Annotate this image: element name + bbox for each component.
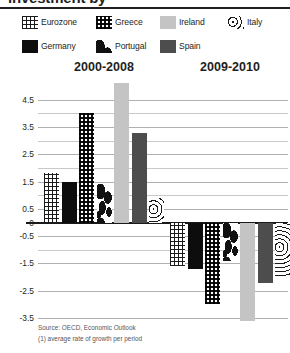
y-axis-tick-label: 2.5 (0, 149, 34, 159)
bar-eurozone-2009-2010 (170, 223, 185, 267)
legend-label: Eurozone (41, 17, 77, 27)
group-label-1: 2000-2008 (44, 60, 164, 74)
gridline-minor (38, 168, 288, 169)
bar-greece-2000-2008 (79, 113, 94, 222)
legend-item-italy[interactable]: Italy (228, 12, 262, 32)
bar-portugal-2000-2008 (97, 184, 112, 222)
cropped-title-text: investment by (8, 0, 106, 6)
y-axis-tick-label: -1.5 (0, 258, 34, 268)
bar-portugal-2009-2010 (223, 223, 238, 261)
chart-footnotes: Source: OECD, Economic Outlook (1) avera… (38, 322, 288, 344)
y-axis-tick-label: 3.5 (0, 122, 34, 132)
legend-swatch-icon (96, 40, 112, 53)
bar-italy-2000-2008 (149, 198, 164, 223)
legend-label: Greece (115, 17, 143, 27)
legend-item-germany[interactable]: Germany (22, 36, 76, 56)
legend-row: GermanyPortugalSpain (0, 36, 290, 56)
legend-swatch-icon (22, 40, 38, 53)
y-axis-tick-label: -2.5 (0, 286, 34, 296)
bar-ireland-2000-2008 (114, 83, 129, 222)
group-labels: 2000-20082009-2010 (0, 60, 290, 78)
y-axis-tick-label: 0.5 (0, 204, 34, 214)
chart-legend: EurozoneGreeceIrelandItalyGermanyPortuga… (0, 12, 290, 60)
bar-germany-2000-2008 (62, 182, 77, 223)
gridline-major (38, 154, 288, 155)
method-note: (1) average rate of growth per period (38, 333, 288, 344)
gridline-major (38, 127, 288, 128)
legend-label: Portugal (115, 41, 146, 51)
bar-germany-2009-2010 (188, 223, 203, 269)
y-axis-tick-label: -0.5 (0, 231, 34, 241)
legend-label: Germany (41, 41, 76, 51)
bar-spain-2009-2010 (258, 223, 273, 283)
bar-italy-2009-2010 (275, 223, 290, 278)
legend-swatch-icon (22, 16, 38, 29)
legend-label: Italy (247, 17, 262, 27)
y-axis-tick-label: -3.5 (0, 313, 34, 323)
legend-swatch-icon (96, 16, 112, 29)
legend-item-greece[interactable]: Greece (96, 12, 143, 32)
bar-spain-2000-2008 (132, 133, 147, 223)
bar-eurozone-2000-2008 (44, 173, 59, 222)
legend-item-spain[interactable]: Spain (160, 36, 200, 56)
legend-row: EurozoneGreeceIrelandItaly (0, 12, 290, 32)
legend-item-ireland[interactable]: Ireland (160, 12, 205, 32)
gridline-major (38, 100, 288, 101)
y-axis-tick-label: 4.5 (0, 95, 34, 105)
legend-label: Ireland (179, 17, 205, 27)
legend-item-portugal[interactable]: Portugal (96, 36, 146, 56)
cropped-title: investment by (0, 0, 290, 7)
legend-item-eurozone[interactable]: Eurozone (22, 12, 77, 32)
gridline-minor (38, 141, 288, 142)
bar-greece-2009-2010 (205, 223, 220, 305)
gridline-minor (38, 113, 288, 114)
legend-label: Spain (179, 41, 200, 51)
y-axis-tick-label: 1.5 (0, 177, 34, 187)
chart-axes: 4.53.52.51.50.50-0.5-1.5-2.5-3.5 (0, 78, 290, 318)
bar-ireland-2009-2010 (240, 223, 255, 321)
group-label-2: 2009-2010 (170, 60, 290, 74)
legend-swatch-icon (160, 40, 176, 53)
chart-plot-area: 2000-20082009-2010 4.53.52.51.50.50-0.5-… (0, 60, 290, 318)
header-divider (0, 7, 290, 9)
legend-swatch-icon (160, 16, 176, 29)
legend-swatch-icon (228, 16, 244, 29)
source-note: Source: OECD, Economic Outlook (38, 322, 288, 333)
